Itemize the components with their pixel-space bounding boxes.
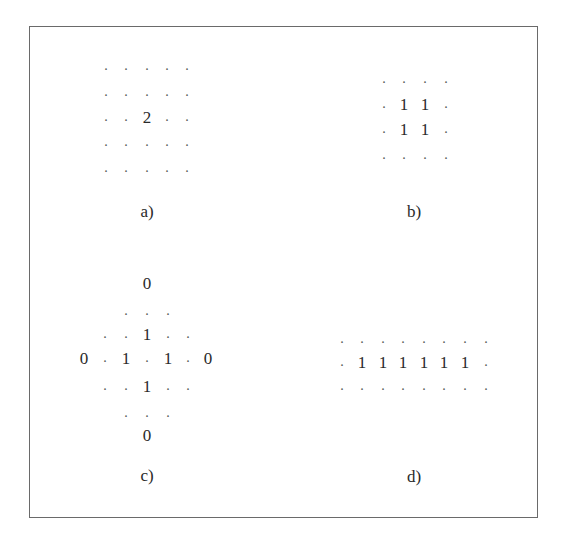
grid-dot: . bbox=[422, 332, 426, 346]
grid-dot: . bbox=[340, 332, 344, 346]
grid-dot: . bbox=[360, 332, 364, 346]
grid-value: 1 bbox=[461, 354, 470, 371]
grid-value: 1 bbox=[440, 354, 449, 371]
grid-dot: . bbox=[340, 355, 344, 369]
grid-dot: . bbox=[442, 379, 446, 393]
grid-dot: . bbox=[381, 332, 385, 346]
panel-label-d: d) bbox=[407, 468, 421, 485]
panel-d: .........111111.........d) bbox=[0, 0, 564, 540]
grid-dot: . bbox=[422, 379, 426, 393]
grid-dot: . bbox=[484, 332, 488, 346]
grid-value: 1 bbox=[358, 354, 367, 371]
grid-dot: . bbox=[484, 355, 488, 369]
grid-dot: . bbox=[381, 379, 385, 393]
grid-dot: . bbox=[340, 379, 344, 393]
grid-value: 1 bbox=[399, 354, 408, 371]
grid-dot: . bbox=[484, 379, 488, 393]
grid-dot: . bbox=[401, 332, 405, 346]
grid-value: 1 bbox=[379, 354, 388, 371]
grid-dot: . bbox=[463, 332, 467, 346]
grid-value: 1 bbox=[420, 354, 429, 371]
grid-dot: . bbox=[442, 332, 446, 346]
grid-dot: . bbox=[401, 379, 405, 393]
grid-dot: . bbox=[463, 379, 467, 393]
grid-dot: . bbox=[360, 379, 364, 393]
